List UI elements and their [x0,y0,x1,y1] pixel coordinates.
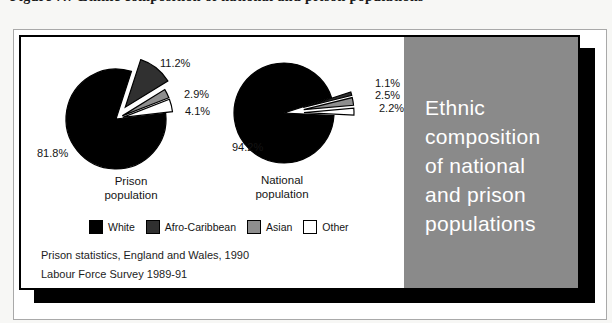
legend-swatch-afro-caribbean-icon [146,220,160,234]
pie-slice-label-asian-national: 2.5% [375,89,400,101]
figure-title: Ethnic composition of national and priso… [425,93,540,238]
chart-card: 81.8% 11.2% 2.9% 4.1% Prison population … [19,35,580,290]
prison-pie-title: Prison population [81,174,181,202]
legend-swatch-other-icon [303,220,317,234]
legend-swatch-white-icon [89,220,103,234]
legend-item-other: Other [303,220,348,234]
pie-slice-label-other-prison: 4.1% [185,105,210,117]
legend: White Afro-Caribbean Asian Other [89,220,349,234]
figure-caption: Figure 7.7 Ethnic composition of nationa… [10,0,606,7]
pie-slice-label-afro-caribbean-national: 1.1% [375,77,400,89]
legend-swatch-asian-icon [247,220,261,234]
pie-slice-label-afro-caribbean-prison: 11.2% [160,57,190,69]
source-note-labour-force-survey: Labour Force Survey 1989-91 [41,268,187,280]
source-note-prison-statistics: Prison statistics, England and Wales, 19… [41,249,249,261]
figure-frame: 81.8% 11.2% 2.9% 4.1% Prison population … [13,29,607,320]
legend-item-afro-caribbean: Afro-Caribbean [146,220,236,234]
legend-item-asian: Asian [247,220,292,234]
pie-slice-label-white-prison: 81.8% [37,147,68,159]
national-pie-title: National population [232,173,332,201]
title-panel: Ethnic composition of national and priso… [404,37,578,288]
legend-label-white: White [108,221,135,233]
legend-label-other: Other [322,221,348,233]
legend-item-white: White [89,220,135,234]
pie-slice-label-other-national: 2.2% [379,102,404,114]
pie-slice-label-white-national: 94.2% [232,141,263,153]
figure-caption-text: Figure 7.7 Ethnic composition of nationa… [10,0,606,5]
pie-slice-label-asian-prison: 2.9% [184,88,209,100]
legend-label-asian: Asian [266,221,292,233]
legend-label-afro-caribbean: Afro-Caribbean [165,221,236,233]
